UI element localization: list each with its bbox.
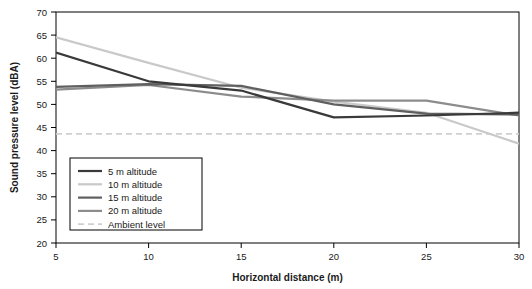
y-tick-label: 55 [36, 76, 47, 87]
x-tick-label: 15 [236, 251, 247, 262]
y-tick-label: 35 [36, 168, 47, 179]
x-tick-label: 25 [421, 251, 432, 262]
y-tick-label: 40 [36, 145, 47, 156]
x-axis-title: Horizontal distance (m) [232, 272, 343, 283]
y-tick-label: 70 [36, 7, 47, 18]
y-tick-label: 60 [36, 53, 47, 64]
line-chart: 202530354045505560657051015202530Horizon… [0, 0, 532, 289]
y-tick-label: 30 [36, 191, 47, 202]
y-tick-label: 65 [36, 30, 47, 41]
legend-label: 5 m altitude [108, 166, 157, 177]
legend-label: 10 m altitude [108, 179, 162, 190]
y-tick-label: 45 [36, 122, 47, 133]
y-axis-title: Sound pressure level (dBA) [9, 62, 20, 193]
y-tick-label: 25 [36, 214, 47, 225]
y-tick-label: 20 [36, 238, 47, 249]
y-tick-label: 50 [36, 99, 47, 110]
chart-container: 202530354045505560657051015202530Horizon… [0, 0, 532, 289]
x-tick-label: 10 [143, 251, 154, 262]
x-tick-label: 30 [514, 251, 525, 262]
legend-label: 15 m altitude [108, 192, 162, 203]
legend-label: Ambient level [108, 219, 165, 230]
legend-label: 20 m altitude [108, 205, 162, 216]
x-tick-label: 5 [53, 251, 58, 262]
x-tick-label: 20 [329, 251, 340, 262]
